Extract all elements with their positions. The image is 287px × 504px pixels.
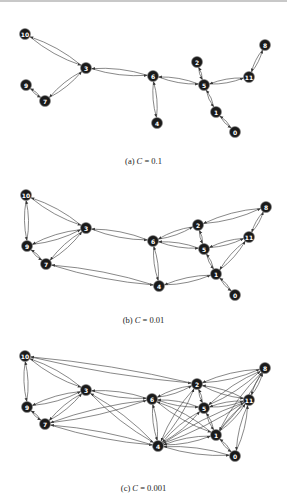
edge-arrow xyxy=(49,71,81,97)
node-7: 7 xyxy=(40,419,51,430)
svg-text:4: 4 xyxy=(157,283,161,290)
edge-arrow xyxy=(91,68,147,75)
svg-text:1: 1 xyxy=(214,432,218,439)
caption-value: = 0.01 xyxy=(140,315,164,325)
node-11: 11 xyxy=(244,72,255,83)
edge-arrow xyxy=(157,386,192,398)
node-11: 11 xyxy=(244,232,255,243)
node-9: 9 xyxy=(21,80,32,91)
edge-arrow xyxy=(220,116,231,128)
edge-arrow xyxy=(30,89,41,98)
node-10: 10 xyxy=(20,29,31,40)
node-8: 8 xyxy=(260,40,271,51)
edge-arrow xyxy=(236,405,247,450)
edge-arrow xyxy=(202,369,259,382)
svg-text:6: 6 xyxy=(150,396,154,403)
svg-text:11: 11 xyxy=(245,397,253,404)
edge-arrow xyxy=(203,208,260,223)
svg-text:10: 10 xyxy=(22,192,30,199)
edge-arrow xyxy=(158,77,198,84)
edge-arrow xyxy=(251,373,262,395)
edge-arrow xyxy=(220,439,232,452)
svg-text:4: 4 xyxy=(155,120,159,127)
edge-arrow xyxy=(50,425,152,445)
svg-text:1: 1 xyxy=(214,109,218,116)
svg-text:3: 3 xyxy=(84,65,88,72)
node-10: 10 xyxy=(21,190,32,201)
edge-arrow xyxy=(31,411,41,420)
svg-text:9: 9 xyxy=(25,243,29,250)
node-1: 1 xyxy=(211,430,222,441)
node-8: 8 xyxy=(260,363,271,374)
svg-text:8: 8 xyxy=(264,204,268,211)
node-2: 2 xyxy=(192,57,203,68)
node-3: 3 xyxy=(81,385,92,396)
caption-c: (c) C = 0.001 xyxy=(0,483,287,493)
network-figure: 01234567891011 01234567891011 0123456789… xyxy=(0,0,287,504)
node-6: 6 xyxy=(148,71,159,82)
edge-arrow xyxy=(31,198,81,226)
edge-arrow xyxy=(158,77,198,84)
svg-text:11: 11 xyxy=(245,234,253,241)
edge-arrow xyxy=(164,275,210,285)
edge-arrow xyxy=(30,359,81,388)
caption-value: = 0.1 xyxy=(142,156,162,166)
node-5: 5 xyxy=(199,244,210,255)
node-3: 3 xyxy=(81,63,92,74)
caption-label: (a) xyxy=(125,156,137,166)
caption-value: = 0.001 xyxy=(138,483,166,493)
svg-text:7: 7 xyxy=(44,261,48,268)
node-6: 6 xyxy=(147,394,158,405)
edge-arrow xyxy=(30,357,191,383)
edge-arrow xyxy=(203,208,260,223)
edge-arrow xyxy=(252,212,264,232)
node-4: 4 xyxy=(153,441,164,452)
node-0: 0 xyxy=(230,451,241,462)
node-8: 8 xyxy=(261,202,272,213)
edge-arrow xyxy=(31,250,42,260)
svg-text:7: 7 xyxy=(43,421,47,428)
svg-text:9: 9 xyxy=(25,404,29,411)
edge-arrow xyxy=(206,254,213,269)
edge-arrow xyxy=(30,37,81,66)
edge-arrow xyxy=(220,278,232,291)
node-11: 11 xyxy=(244,395,255,406)
svg-text:0: 0 xyxy=(233,292,237,299)
node-5: 5 xyxy=(199,80,210,91)
svg-text:10: 10 xyxy=(21,353,29,360)
edge-arrow xyxy=(30,357,191,383)
edge-arrow xyxy=(30,37,81,66)
svg-text:8: 8 xyxy=(263,365,267,372)
node-2: 2 xyxy=(193,220,204,231)
node-2: 2 xyxy=(192,379,203,390)
edge-arrow xyxy=(251,50,262,72)
edge-arrow xyxy=(50,425,152,445)
edge-arrow xyxy=(202,386,243,399)
node-6: 6 xyxy=(148,236,159,247)
edge-arrow xyxy=(30,89,41,98)
node-0: 0 xyxy=(230,290,241,301)
node-9: 9 xyxy=(22,241,33,252)
node-4: 4 xyxy=(152,118,163,129)
edge-arrow xyxy=(220,278,232,291)
caption-label: (c) xyxy=(121,483,133,493)
graph-panel-a: 01234567891011 xyxy=(20,29,271,138)
edge-arrow xyxy=(220,116,231,128)
svg-text:2: 2 xyxy=(195,59,199,66)
edge-arrow xyxy=(26,200,28,240)
edge-arrow xyxy=(164,275,210,285)
edge-arrow xyxy=(49,71,81,97)
svg-text:6: 6 xyxy=(151,238,155,245)
node-1: 1 xyxy=(211,269,222,280)
edge-arrow xyxy=(206,90,214,107)
edge-arrow xyxy=(49,394,82,421)
svg-text:10: 10 xyxy=(21,31,29,38)
edge-arrow xyxy=(206,254,213,269)
svg-text:3: 3 xyxy=(84,387,88,394)
edge-arrow xyxy=(162,412,200,443)
edge-arrow xyxy=(51,265,153,285)
edge-arrow xyxy=(24,200,26,240)
edge-arrow xyxy=(31,250,42,260)
edge-arrow xyxy=(91,69,147,76)
node-0: 0 xyxy=(230,127,241,138)
